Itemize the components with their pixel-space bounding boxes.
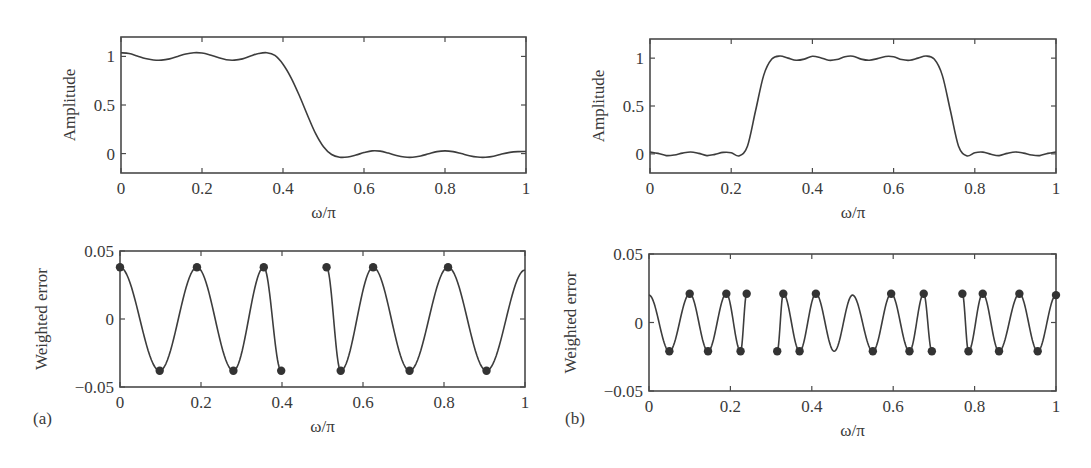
extremal-point	[958, 290, 966, 298]
y-tick-label: 0.5	[94, 96, 115, 115]
x-tick-label: 0.2	[720, 397, 741, 416]
extremal-point	[277, 366, 285, 374]
extremal-point	[444, 263, 452, 271]
y-tick-label: 0	[107, 145, 116, 164]
y-tick-label: 0.5	[623, 97, 644, 116]
x-axis-label: ω/π	[310, 417, 335, 436]
axes-frame	[650, 39, 1056, 173]
x-tick-label: 0	[116, 393, 125, 412]
x-tick-label: 0.2	[191, 179, 212, 198]
x-tick-label: 0	[117, 179, 126, 198]
plot-a-amplitude: 00.20.40.60.8100.51ω/πAmplitude	[60, 37, 530, 222]
extremal-point	[155, 366, 163, 374]
extremal-point	[1033, 347, 1041, 355]
extremal-point	[686, 290, 694, 298]
extremal-point	[742, 290, 750, 298]
x-tick-label: 0.6	[883, 397, 904, 416]
extremal-point	[369, 263, 377, 271]
extremal-point	[405, 366, 413, 374]
extremal-point	[482, 366, 490, 374]
y-tick-label: −0.05	[75, 378, 114, 397]
x-tick-label: 0	[645, 397, 654, 416]
extremal-point	[905, 347, 913, 355]
axes-frame	[120, 251, 525, 387]
extremal-point	[928, 347, 936, 355]
figure: 00.20.40.60.8100.51ω/πAmplitude 00.20.40…	[0, 0, 1091, 468]
weighted-error-curve	[327, 267, 525, 370]
x-tick-label: 0.2	[190, 393, 211, 412]
extremal-point	[704, 347, 712, 355]
plot-b-amplitude: 00.20.40.60.8100.51ω/πAmplitude	[589, 39, 1060, 222]
y-tick-label: 1	[636, 49, 645, 68]
extremal-point	[795, 347, 803, 355]
x-tick-label: 0.8	[433, 393, 454, 412]
x-axis-label: ω/π	[841, 203, 866, 222]
extremal-point	[193, 263, 201, 271]
extremal-point	[1052, 291, 1060, 299]
x-tick-label: 0.8	[964, 179, 985, 198]
extremal-point	[1015, 290, 1023, 298]
x-tick-label: 0.4	[272, 179, 294, 198]
x-tick-label: 1	[1052, 179, 1061, 198]
x-tick-label: 0.6	[353, 179, 374, 198]
y-axis-label: Weighted error	[561, 271, 580, 373]
extremal-point	[337, 366, 345, 374]
y-axis-label: Weighted error	[32, 268, 51, 370]
x-tick-label: 0.8	[964, 397, 985, 416]
x-tick-label: 0.6	[883, 179, 904, 198]
axes-frame	[121, 37, 526, 173]
y-tick-label: 0	[106, 310, 115, 329]
x-axis-label: ω/π	[840, 421, 865, 440]
extremal-point	[260, 263, 268, 271]
x-tick-label: 1	[521, 393, 530, 412]
extremal-point	[887, 290, 895, 298]
extremal-point	[779, 290, 787, 298]
y-tick-label: 0	[636, 145, 645, 164]
panel-label-b: (b)	[565, 409, 585, 428]
x-tick-label: 0.8	[434, 179, 455, 198]
extremal-point	[920, 290, 928, 298]
extremal-point	[322, 263, 330, 271]
panel-label-a: (a)	[33, 409, 52, 428]
y-tick-label: −0.05	[604, 382, 643, 401]
weighted-error-curve	[962, 294, 1056, 352]
x-tick-label: 1	[522, 179, 531, 198]
extremal-point	[229, 366, 237, 374]
amplitude-curve	[121, 53, 526, 158]
plot-b-weighted-error: 00.20.40.60.81−0.0500.05ω/πWeighted erro…	[561, 245, 1060, 440]
extremal-point	[869, 347, 877, 355]
x-tick-label: 0	[646, 179, 655, 198]
y-axis-label: Amplitude	[60, 69, 79, 142]
axes-frame	[649, 254, 1056, 391]
x-tick-label: 1	[1052, 397, 1061, 416]
extremal-point	[964, 347, 972, 355]
x-axis-label: ω/π	[311, 203, 336, 222]
amplitude-curve	[650, 56, 1056, 156]
extremal-point	[773, 347, 781, 355]
weighted-error-curve	[120, 267, 281, 370]
y-tick-label: 1	[107, 47, 116, 66]
extremal-point	[116, 263, 124, 271]
x-tick-label: 0.4	[271, 393, 293, 412]
extremal-point	[722, 290, 730, 298]
y-axis-label: Amplitude	[589, 70, 608, 143]
y-tick-label: 0.05	[84, 242, 114, 261]
plot-a-weighted-error: 00.20.40.60.81−0.0500.05ω/πWeighted erro…	[32, 242, 529, 436]
x-tick-label: 0.4	[801, 397, 823, 416]
x-tick-label: 0.2	[721, 179, 742, 198]
x-tick-label: 0.6	[352, 393, 373, 412]
weighted-error-curve	[649, 294, 747, 352]
x-tick-label: 0.4	[802, 179, 824, 198]
extremal-point	[979, 290, 987, 298]
y-tick-label: 0.05	[613, 245, 643, 264]
y-tick-label: 0	[635, 314, 644, 333]
weighted-error-curve	[777, 294, 932, 352]
extremal-point	[736, 347, 744, 355]
extremal-point	[665, 347, 673, 355]
extremal-point	[995, 347, 1003, 355]
extremal-point	[812, 290, 820, 298]
